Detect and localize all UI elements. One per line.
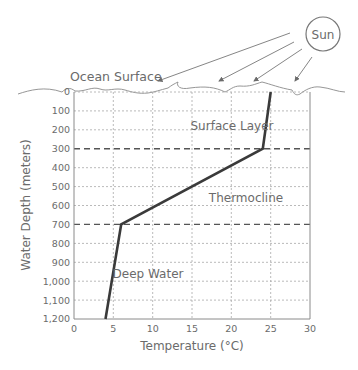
- sun-label: Sun: [312, 28, 335, 42]
- region-label-deep-water: Deep Water: [113, 267, 184, 281]
- y-tick: 100: [52, 105, 70, 116]
- x-tick-labels: 0 5 10 15 20 25 30: [71, 323, 316, 334]
- plot-area: Surface Layer Thermocline Deep Water: [74, 92, 310, 319]
- x-tick: 5: [110, 323, 116, 334]
- x-tick: 10: [147, 323, 159, 334]
- y-tick: 1,200: [43, 313, 70, 324]
- sun-rays: [158, 33, 312, 81]
- y-tick: 700: [52, 219, 70, 230]
- y-tick: 800: [52, 238, 70, 249]
- x-tick: 15: [186, 323, 198, 334]
- y-tick: 900: [52, 257, 70, 268]
- x-axis-title: Temperature (°C): [139, 339, 244, 353]
- sun-ray-arrow: [295, 57, 312, 81]
- y-tick: 400: [52, 162, 70, 173]
- x-tick: 30: [304, 323, 316, 334]
- region-label-thermocline: Thermocline: [208, 191, 283, 205]
- sun-ray-arrow: [158, 33, 290, 81]
- x-tick: 25: [265, 323, 277, 334]
- y-tick: 1,100: [43, 295, 70, 306]
- y-tick: 200: [52, 124, 70, 135]
- x-tick: 20: [225, 323, 237, 334]
- y-tick: 600: [52, 200, 70, 211]
- ocean-surface-label: Ocean Surface: [70, 69, 162, 84]
- y-tick: 1,000: [43, 276, 70, 287]
- y-tick-labels: 0 100 200 300 400 500 600 700 800 900 1,…: [43, 86, 70, 324]
- y-tick: 300: [52, 143, 70, 154]
- y-tick: 0: [64, 86, 70, 97]
- sun-ray-arrow: [254, 49, 302, 81]
- ocean-temperature-diagram: Sun Ocean Surface: [0, 0, 358, 370]
- x-tick: 0: [71, 323, 77, 334]
- region-label-surface-layer: Surface Layer: [191, 119, 274, 133]
- sun: Sun: [306, 17, 340, 51]
- y-tick: 500: [52, 181, 70, 192]
- y-axis-title: Water Depth (meters): [19, 139, 33, 270]
